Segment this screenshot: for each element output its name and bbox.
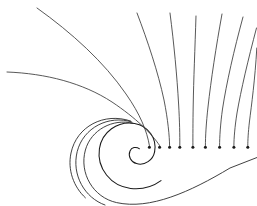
endpoint-6 bbox=[204, 146, 207, 149]
spiral-vortex-plot bbox=[0, 0, 257, 206]
spiral-turn-3 bbox=[76, 120, 132, 205]
endpoint-7 bbox=[218, 146, 221, 149]
figure-canvas bbox=[0, 0, 257, 206]
spiral-turn-2 bbox=[84, 122, 257, 204]
streamline-fan-4 bbox=[205, 14, 222, 146]
streamline-upper-left-steep bbox=[37, 8, 149, 146]
streamline-group bbox=[7, 8, 257, 205]
endpoint-5 bbox=[191, 146, 194, 149]
endpoint-8 bbox=[232, 146, 235, 149]
streamline-fan-5 bbox=[220, 17, 243, 146]
endpoint-4 bbox=[178, 146, 181, 149]
streamline-fan-7 bbox=[248, 48, 257, 146]
spiral-core-inner bbox=[129, 147, 154, 164]
endpoint-1 bbox=[148, 146, 151, 149]
streamline-fan-2 bbox=[170, 13, 180, 146]
endpoint-3 bbox=[168, 146, 171, 149]
endpoint-9 bbox=[246, 146, 249, 149]
streamline-fan-6 bbox=[234, 28, 257, 146]
endpoint-2 bbox=[158, 146, 161, 149]
streamline-fan-3 bbox=[193, 16, 196, 146]
endpoint-marker-group bbox=[148, 146, 249, 149]
spiral-turn-1 bbox=[99, 123, 161, 189]
streamline-upper-left-flat bbox=[7, 72, 160, 146]
